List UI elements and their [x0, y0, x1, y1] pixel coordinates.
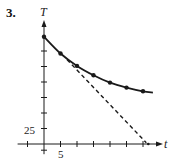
tangent-line: [67, 60, 146, 143]
figure: 3. T t 25 5: [0, 0, 170, 166]
x-axis-label: t: [164, 137, 168, 151]
data-series: [42, 35, 153, 146]
chart: T t 25 5: [0, 0, 170, 166]
axes: [18, 20, 163, 154]
axis-ticks: [28, 51, 144, 150]
data-point: [124, 85, 128, 89]
data-point: [108, 80, 112, 84]
temperature-curve: [44, 37, 153, 93]
data-point: [141, 89, 145, 93]
data-point: [91, 73, 95, 77]
x-tick-label-5: 5: [58, 148, 64, 160]
y-axis-label: T: [40, 5, 48, 19]
data-point: [58, 51, 62, 55]
tangent-intercept-point: [147, 143, 150, 146]
data-point: [75, 64, 79, 68]
x-axis-arrow-icon: [156, 142, 163, 147]
y-tick-label-25: 25: [24, 124, 36, 136]
y-axis-arrow-icon: [42, 20, 47, 27]
data-point: [42, 35, 46, 39]
problem-number: 3.: [6, 5, 16, 21]
